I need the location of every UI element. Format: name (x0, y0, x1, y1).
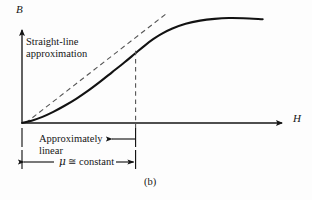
x-axis-label: H (293, 112, 301, 125)
straight-line-approximation-label-line1: Straight-line (26, 36, 87, 48)
straight-line-approximation-label-line2: approximation (26, 48, 87, 60)
bh-curve-figure (0, 0, 312, 200)
approximately-linear-label: Approximately linear (39, 133, 103, 157)
figure-container: B H Straight-line approximation Approxim… (0, 0, 312, 200)
approximately-linear-label-line1: Approximately (39, 133, 103, 145)
straight-line-approximation-label: Straight-line approximation (26, 36, 87, 60)
congruent-symbol: ≅ (68, 156, 76, 167)
straight-line-approximation-tangent (26, 13, 168, 123)
permeability-constant-label: μ ≅ constant (59, 155, 114, 168)
bh-magnetization-curve (22, 18, 263, 123)
mu-symbol: μ (59, 155, 66, 167)
y-axis-label: B (16, 3, 23, 16)
permeability-value: constant (79, 156, 114, 167)
figure-caption: (b) (144, 176, 156, 188)
